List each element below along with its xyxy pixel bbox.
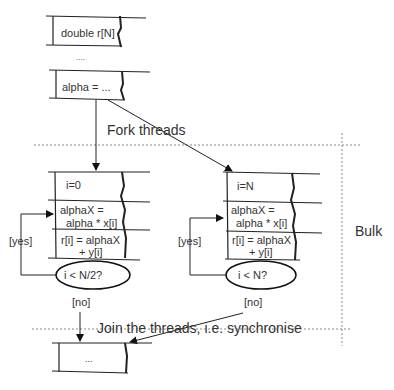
- right-no-label: [no]: [244, 296, 262, 308]
- left-condition-text: i < N/2?: [64, 269, 102, 281]
- left-step1-line1: alphaX =: [60, 204, 104, 216]
- right-step1-line1: alphaX =: [231, 204, 275, 216]
- right-init-text: i=N: [237, 180, 254, 192]
- box-declare-r-text: double r[N]: [61, 27, 115, 39]
- right-condition-text: i < N?: [238, 269, 267, 281]
- flow-diagram: double r[N] .... alpha = ... Fork thread…: [0, 0, 394, 390]
- left-no-label: [no]: [72, 296, 90, 308]
- left-step1-line2: alpha * x[i]: [66, 217, 117, 229]
- left-yes-label: [yes]: [9, 235, 32, 247]
- join-label: Join the threads, i.e. synchronise: [97, 320, 302, 336]
- right-yes-label: [yes]: [178, 235, 201, 247]
- right-step2-line1: r[i] = alphaX: [232, 234, 292, 246]
- box-after-join: [52, 343, 152, 373]
- left-step2-line1: r[i] = alphaX: [61, 234, 121, 246]
- left-step2-line2: + y[i]: [79, 246, 103, 258]
- fork-label: Fork threads: [107, 122, 186, 138]
- bulk-label: Bulk: [355, 223, 383, 239]
- left-init-text: i=0: [66, 179, 81, 191]
- right-step2-line2: + y[i]: [249, 246, 273, 258]
- ellipsis-text: ....: [76, 53, 85, 62]
- box-alpha-text: alpha = ...: [62, 81, 111, 93]
- box-after-join-text: ...: [85, 354, 93, 364]
- right-step1-line2: alpha * x[i]: [236, 217, 287, 229]
